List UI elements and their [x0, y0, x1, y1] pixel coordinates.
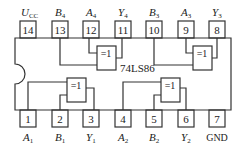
pin-number: 12 [86, 24, 97, 36]
pin-label-y2: Y2 [181, 131, 191, 145]
wire [116, 38, 122, 58]
xor-gate-1: =1 [28, 78, 94, 110]
part-number-label: 74LS86 [120, 62, 155, 74]
pin-number: 14 [23, 24, 35, 36]
pin-number: 4 [120, 113, 126, 125]
wire [60, 95, 67, 110]
pin-label-a1: A1 [22, 131, 34, 145]
xor-gate-2: =1 [123, 78, 186, 110]
pin-label-b3: B3 [149, 6, 160, 20]
wire [212, 38, 217, 58]
pin-label-gnd: GND [206, 132, 228, 143]
xor-gate-4: =1 [60, 38, 122, 70]
pin-label-y3: Y3 [212, 6, 222, 20]
pin-number: 11 [118, 24, 129, 36]
wire [154, 38, 193, 65]
pin-label-a2: A2 [117, 131, 129, 145]
wire [180, 88, 186, 110]
pin-number: 2 [57, 113, 63, 125]
wire [186, 38, 193, 53]
gate-symbol: =1 [197, 48, 208, 59]
pin-number: 5 [151, 113, 157, 125]
pin-label-a4: A4 [85, 6, 97, 20]
wire [154, 95, 161, 110]
pin-label-b4: B4 [55, 6, 66, 20]
wire [89, 38, 97, 53]
pin-number: 9 [183, 24, 189, 36]
pin-label-ucc: UCC [21, 6, 39, 20]
pin-number: 3 [88, 113, 94, 125]
top-pins: 14 13 12 11 10 9 8 UCC B4 A4 Y4 B3 A3 Y3 [20, 6, 225, 38]
gate-symbol: =1 [165, 80, 176, 91]
pin-number: 13 [55, 24, 67, 36]
xor-gate-3: =1 [154, 38, 217, 70]
pin-label-y1: Y1 [86, 131, 96, 145]
pin-label-a3: A3 [180, 6, 192, 20]
pin-number: 7 [214, 113, 220, 125]
pin-label-y4: Y4 [118, 6, 128, 20]
pin-number: 6 [183, 113, 189, 125]
pin-number: 10 [149, 24, 161, 36]
bottom-pins: 1 2 3 4 5 6 7 A1 B1 Y1 A2 B2 Y2 GND [20, 110, 228, 145]
gate-symbol: =1 [71, 80, 82, 91]
wire [123, 82, 161, 110]
pin-number: 8 [214, 24, 220, 36]
ic-pinout-diagram: 14 13 12 11 10 9 8 UCC B4 A4 Y4 B3 A3 Y3… [0, 0, 245, 149]
wire [60, 38, 97, 65]
gate-symbol: =1 [101, 48, 112, 59]
pin-number: 1 [25, 113, 31, 125]
pin-label-b2: B2 [149, 131, 160, 145]
wire [86, 88, 94, 110]
pin-label-b1: B1 [55, 131, 66, 145]
wire [28, 82, 67, 110]
